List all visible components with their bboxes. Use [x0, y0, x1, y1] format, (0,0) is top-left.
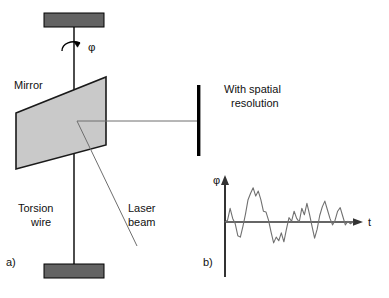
t-axis-arrowhead: [353, 218, 363, 226]
mirror-label: Mirror: [14, 79, 43, 91]
bottom-clamp-icon: [44, 264, 104, 278]
laser-beam-label-line2: beam: [128, 216, 156, 228]
panel-b-caption: b): [203, 256, 213, 268]
phi-axis-arrowhead: [221, 175, 229, 185]
signal-trace: [225, 188, 353, 243]
curved-rotation-arrow-icon: [62, 41, 80, 51]
laser-beam-label-line1: Laser: [128, 202, 156, 214]
rotation-phi-label: φ: [88, 41, 95, 53]
diagram-canvas: φ Mirror Torsion wire Laser: [0, 0, 389, 298]
torsion-wire-label-line1: Torsion: [18, 202, 53, 214]
detector-label-line2: resolution: [231, 97, 279, 109]
detector-label-line1: With spatial: [224, 83, 281, 95]
panel-b-group: φ t b): [203, 174, 371, 277]
top-clamp-icon: [44, 13, 104, 27]
phi-axis-label: φ: [213, 174, 220, 186]
detector-bar-icon: [197, 85, 200, 156]
panel-a-caption: a): [6, 256, 16, 268]
panel-a-group: φ Mirror Torsion wire Laser: [6, 13, 281, 278]
torsion-wire-label-line2: wire: [30, 216, 51, 228]
figure-root: φ Mirror Torsion wire Laser: [0, 0, 389, 298]
t-axis-label: t: [368, 216, 371, 228]
